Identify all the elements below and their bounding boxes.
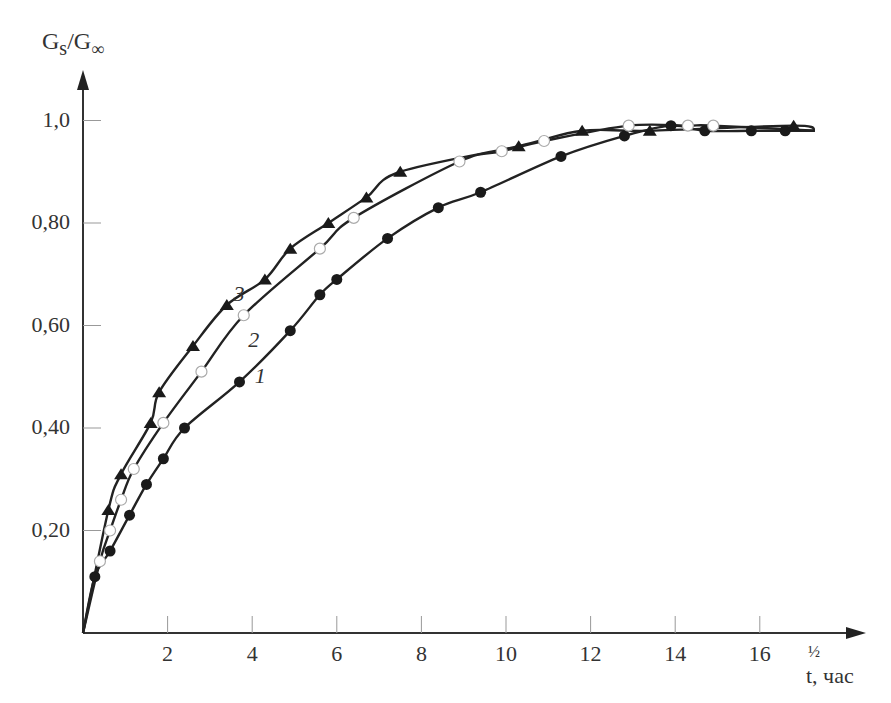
open-circle-marker-icon — [708, 120, 719, 131]
y-tick-label: 0,40 — [0, 414, 70, 440]
y-tick-label: 0,60 — [0, 312, 70, 338]
curve-label-3: 3 — [234, 281, 245, 307]
data-markers — [89, 120, 800, 583]
y-axis-title: Gs/G∞ — [42, 28, 104, 60]
x-tick-label: 6 — [317, 641, 357, 667]
filled-circle-marker-icon — [89, 571, 100, 582]
filled-circle-marker-icon — [665, 120, 676, 131]
filled-circle-marker-icon — [382, 233, 393, 244]
x-axis-title: ½ t, час — [806, 645, 854, 689]
x-title-text: t, час — [806, 663, 854, 689]
filled-circle-marker-icon — [105, 546, 116, 557]
open-circle-marker-icon — [539, 136, 550, 147]
curve-label-2: 2 — [248, 327, 259, 353]
x-tick-label: 12 — [571, 641, 611, 667]
open-circle-marker-icon — [196, 366, 207, 377]
open-circle-marker-icon — [128, 464, 139, 475]
triangle-marker-icon — [144, 417, 158, 428]
y-ticks — [83, 121, 101, 531]
triangle-marker-icon — [114, 468, 128, 479]
triangle-marker-icon — [186, 340, 200, 351]
curve-1 — [83, 126, 815, 633]
curve-label-1: 1 — [255, 363, 266, 389]
curve-2 — [83, 124, 815, 633]
open-circle-marker-icon — [348, 212, 359, 223]
filled-circle-marker-icon — [179, 423, 190, 434]
filled-circle-marker-icon — [141, 479, 152, 490]
y-title-sub-s: s — [59, 37, 67, 59]
filled-circle-marker-icon — [234, 376, 245, 387]
plot-area — [0, 0, 891, 703]
x-tick-label: 2 — [148, 641, 188, 667]
x-tick-label: 14 — [655, 641, 695, 667]
y-tick-label: 1,0 — [0, 107, 70, 133]
fitted-curves — [83, 124, 815, 633]
x-tick-label: 16 — [740, 641, 780, 667]
open-circle-marker-icon — [454, 156, 465, 167]
open-circle-marker-icon — [496, 146, 507, 157]
y-tick-label: 0,20 — [0, 517, 70, 543]
filled-circle-marker-icon — [555, 151, 566, 162]
filled-circle-marker-icon — [124, 510, 135, 521]
filled-circle-marker-icon — [619, 130, 630, 141]
filled-circle-marker-icon — [158, 453, 169, 464]
open-circle-marker-icon — [314, 243, 325, 254]
x-tick-label: 10 — [486, 641, 526, 667]
filled-circle-marker-icon — [746, 125, 757, 136]
open-circle-marker-icon — [105, 525, 116, 536]
y-title-slash-g: /G — [67, 28, 91, 54]
filled-circle-marker-icon — [285, 325, 296, 336]
x-axis-arrow-icon — [846, 627, 866, 639]
y-tick-label: 0,80 — [0, 209, 70, 235]
y-title-sub-inf: ∞ — [91, 39, 104, 59]
filled-circle-marker-icon — [331, 274, 342, 285]
open-circle-marker-icon — [238, 310, 249, 321]
x-tick-label: 8 — [401, 641, 441, 667]
filled-circle-marker-icon — [475, 187, 486, 198]
x-title-power: ½ — [808, 643, 820, 661]
triangle-marker-icon — [101, 504, 115, 515]
curve-3 — [83, 126, 815, 633]
open-circle-marker-icon — [116, 494, 127, 505]
x-tick-label: 4 — [232, 641, 272, 667]
x-ticks — [168, 616, 760, 633]
open-circle-marker-icon — [623, 120, 634, 131]
open-circle-marker-icon — [158, 417, 169, 428]
open-circle-marker-icon — [682, 120, 693, 131]
triangle-marker-icon — [152, 386, 166, 397]
open-circle-marker-icon — [94, 556, 105, 567]
y-title-g: G — [42, 28, 59, 54]
chart: 0,200,400,600,801,0 246810121416 123 Gs/… — [0, 0, 891, 703]
filled-circle-marker-icon — [314, 289, 325, 300]
filled-circle-marker-icon — [433, 202, 444, 213]
y-axis-arrow-icon — [77, 70, 89, 90]
